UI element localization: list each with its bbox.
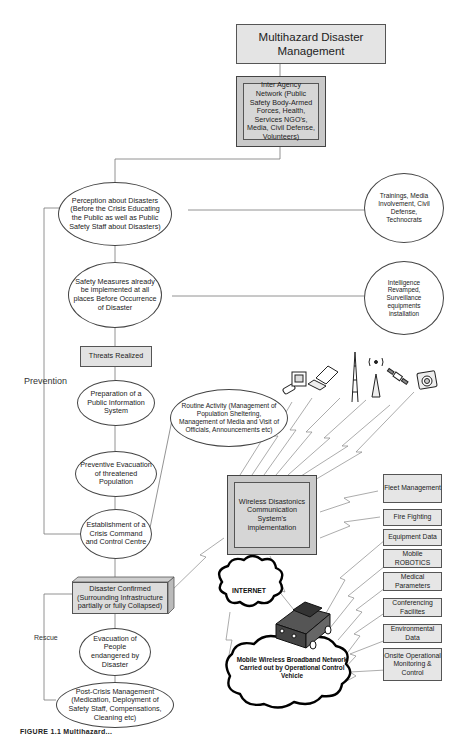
service-mobile-robotics: Mobile ROBOTICS <box>383 549 442 568</box>
wireless-link <box>298 405 390 478</box>
service-label: Fire Fighting <box>394 513 432 521</box>
camera-icon <box>417 371 438 390</box>
inter-agency-text: Inter Agency Network (Public Safety Body… <box>247 81 315 141</box>
wireless-link <box>320 491 378 512</box>
wireless-link <box>320 517 380 538</box>
safety-measures-node: Safety Measures already be implemented a… <box>68 262 162 328</box>
preventive-evacuation-text: Preventive Evacuation of threatened Popu… <box>80 461 152 487</box>
threats-realized-node: Threats Realized <box>80 346 152 367</box>
public-info-node: Preparation of a Public Information Syst… <box>77 380 155 426</box>
disaster-confirmed-3d-side <box>168 577 174 614</box>
perception-node: Perception about Disasters (Before the C… <box>58 182 172 246</box>
internet-cloud-shape <box>219 556 282 606</box>
service-label: Equipment Data <box>388 533 437 541</box>
service-environmental-data: Environmental Data <box>383 624 442 643</box>
internet-label: INTERNET <box>222 587 276 595</box>
wireless-link <box>168 538 224 594</box>
diagram-title-text: Multihazard Disaster Management <box>237 30 385 59</box>
laptop-icon <box>308 366 338 390</box>
wireless-system-node: Wireless Disastonics Communication Syste… <box>227 475 317 555</box>
computer-icon <box>292 372 306 386</box>
trainings-text: Trainings, Media Involvement, Civil Defe… <box>373 192 435 224</box>
service-label: Environmental Data <box>384 625 441 641</box>
antenna-icon <box>369 358 383 397</box>
service-fire-fighting: Fire Fighting <box>383 509 442 526</box>
inter-agency-node: Inter Agency Network (Public Safety Body… <box>236 76 326 147</box>
satellite-icon <box>387 368 408 384</box>
perception-text: Perception about Disasters (Before the C… <box>65 197 165 232</box>
service-onsite-monitoring: Onsite Operational Monitoring & Control <box>383 648 442 681</box>
wireless-system-text: Wireless Disastonics Communication Syste… <box>238 498 306 533</box>
preventive-evacuation-node: Preventive Evacuation of threatened Popu… <box>75 451 157 497</box>
disaster-confirmed-text: Disaster Confirmed (Surrounding Infrastr… <box>73 585 167 611</box>
intelligence-text: Intelligence Revamped, Surveillance equi… <box>375 279 433 317</box>
threats-realized-text: Threats Realized <box>89 352 143 361</box>
disaster-confirmed-node: Disaster Confirmed (Surrounding Infrastr… <box>72 582 168 614</box>
trainings-node: Trainings, Media Involvement, Civil Defe… <box>364 173 444 243</box>
intelligence-node: Intelligence Revamped, Surveillance equi… <box>364 261 444 335</box>
service-medical-parameters: Medical Parameters <box>383 572 442 591</box>
wireless-link <box>226 612 232 660</box>
post-crisis-node: Post-Crisis Management (Medication, Depl… <box>56 682 174 728</box>
service-label: Medical Parameters <box>384 573 441 589</box>
mobile-network-label: Mobile Wireless Broadband Network Carrie… <box>236 656 348 680</box>
post-crisis-text: Post-Crisis Management (Medication, Depl… <box>63 688 167 723</box>
service-label: Fleet Management <box>384 484 441 492</box>
public-info-text: Preparation of a Public Information Syst… <box>82 390 150 416</box>
service-label: Onsite Operational Monitoring & Control <box>384 652 441 676</box>
rescue-label: Rescue <box>34 634 58 641</box>
service-fleet-management: Fleet Management <box>383 474 442 503</box>
wireless-link <box>322 540 385 620</box>
safety-measures-text: Safety Measures already be implemented a… <box>73 278 157 313</box>
evacuation-text: Evacuation of People endangered by Disas… <box>86 635 144 670</box>
crisis-command-text: Establishment of a Crisis Command and Co… <box>85 521 147 547</box>
routine-activity-text: Routine Activity (Management of Populati… <box>177 402 281 434</box>
tower-icon <box>352 352 358 402</box>
service-label: Conferencing Facilites <box>384 599 441 615</box>
routine-activity-node: Routine Activity (Management of Populati… <box>170 389 288 447</box>
service-equipment-data: Equipment Data <box>383 529 442 546</box>
crisis-command-node: Establishment of a Crisis Command and Co… <box>80 509 152 559</box>
wireless-link <box>338 588 385 640</box>
diagram-title: Multihazard Disaster Management <box>236 24 386 64</box>
prevention-label: Prevention <box>24 376 67 386</box>
evacuation-node: Evacuation of People endangered by Disas… <box>79 628 151 676</box>
figure-caption: FIGURE 1.1 Multihazard... <box>20 728 112 735</box>
service-label: Mobile ROBOTICS <box>384 550 441 566</box>
service-conferencing-facilities: Conferencing Facilites <box>383 598 442 617</box>
